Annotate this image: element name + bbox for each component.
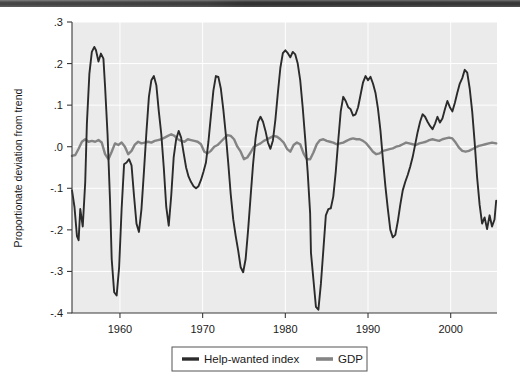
y-tick-label: .3: [54, 16, 63, 28]
x-tick-label: 1970: [190, 323, 214, 335]
x-tick-label: 1960: [108, 323, 132, 335]
chart-figure: -.4-.3-.2-.1.0.1.2.3 1960197019801990200…: [0, 0, 520, 383]
line-chart: -.4-.3-.2-.1.0.1.2.3 1960197019801990200…: [0, 0, 520, 383]
legend-label: Help-wanted index: [204, 353, 300, 365]
y-tick-label: -.2: [50, 224, 63, 236]
y-tick-label: .0: [54, 141, 63, 153]
x-axis-ticks: 19601970198019902000: [108, 313, 463, 335]
plot-area-background: [72, 22, 497, 313]
y-axis-ticks: -.4-.3-.2-.1.0.1.2.3: [50, 16, 72, 319]
y-axis-label: Proportionate deviation from trend: [12, 88, 24, 247]
y-tick-label: -.4: [50, 307, 63, 319]
y-tick-label: .1: [54, 99, 63, 111]
y-tick-label: .2: [54, 58, 63, 70]
chart-legend: Help-wanted indexGDP: [172, 347, 367, 371]
x-tick-label: 1990: [356, 323, 380, 335]
y-tick-label: -.3: [50, 265, 63, 277]
x-tick-label: 1980: [273, 323, 297, 335]
x-tick-label: 2000: [438, 323, 462, 335]
legend-label: GDP: [338, 353, 363, 365]
y-tick-label: -.1: [50, 182, 63, 194]
